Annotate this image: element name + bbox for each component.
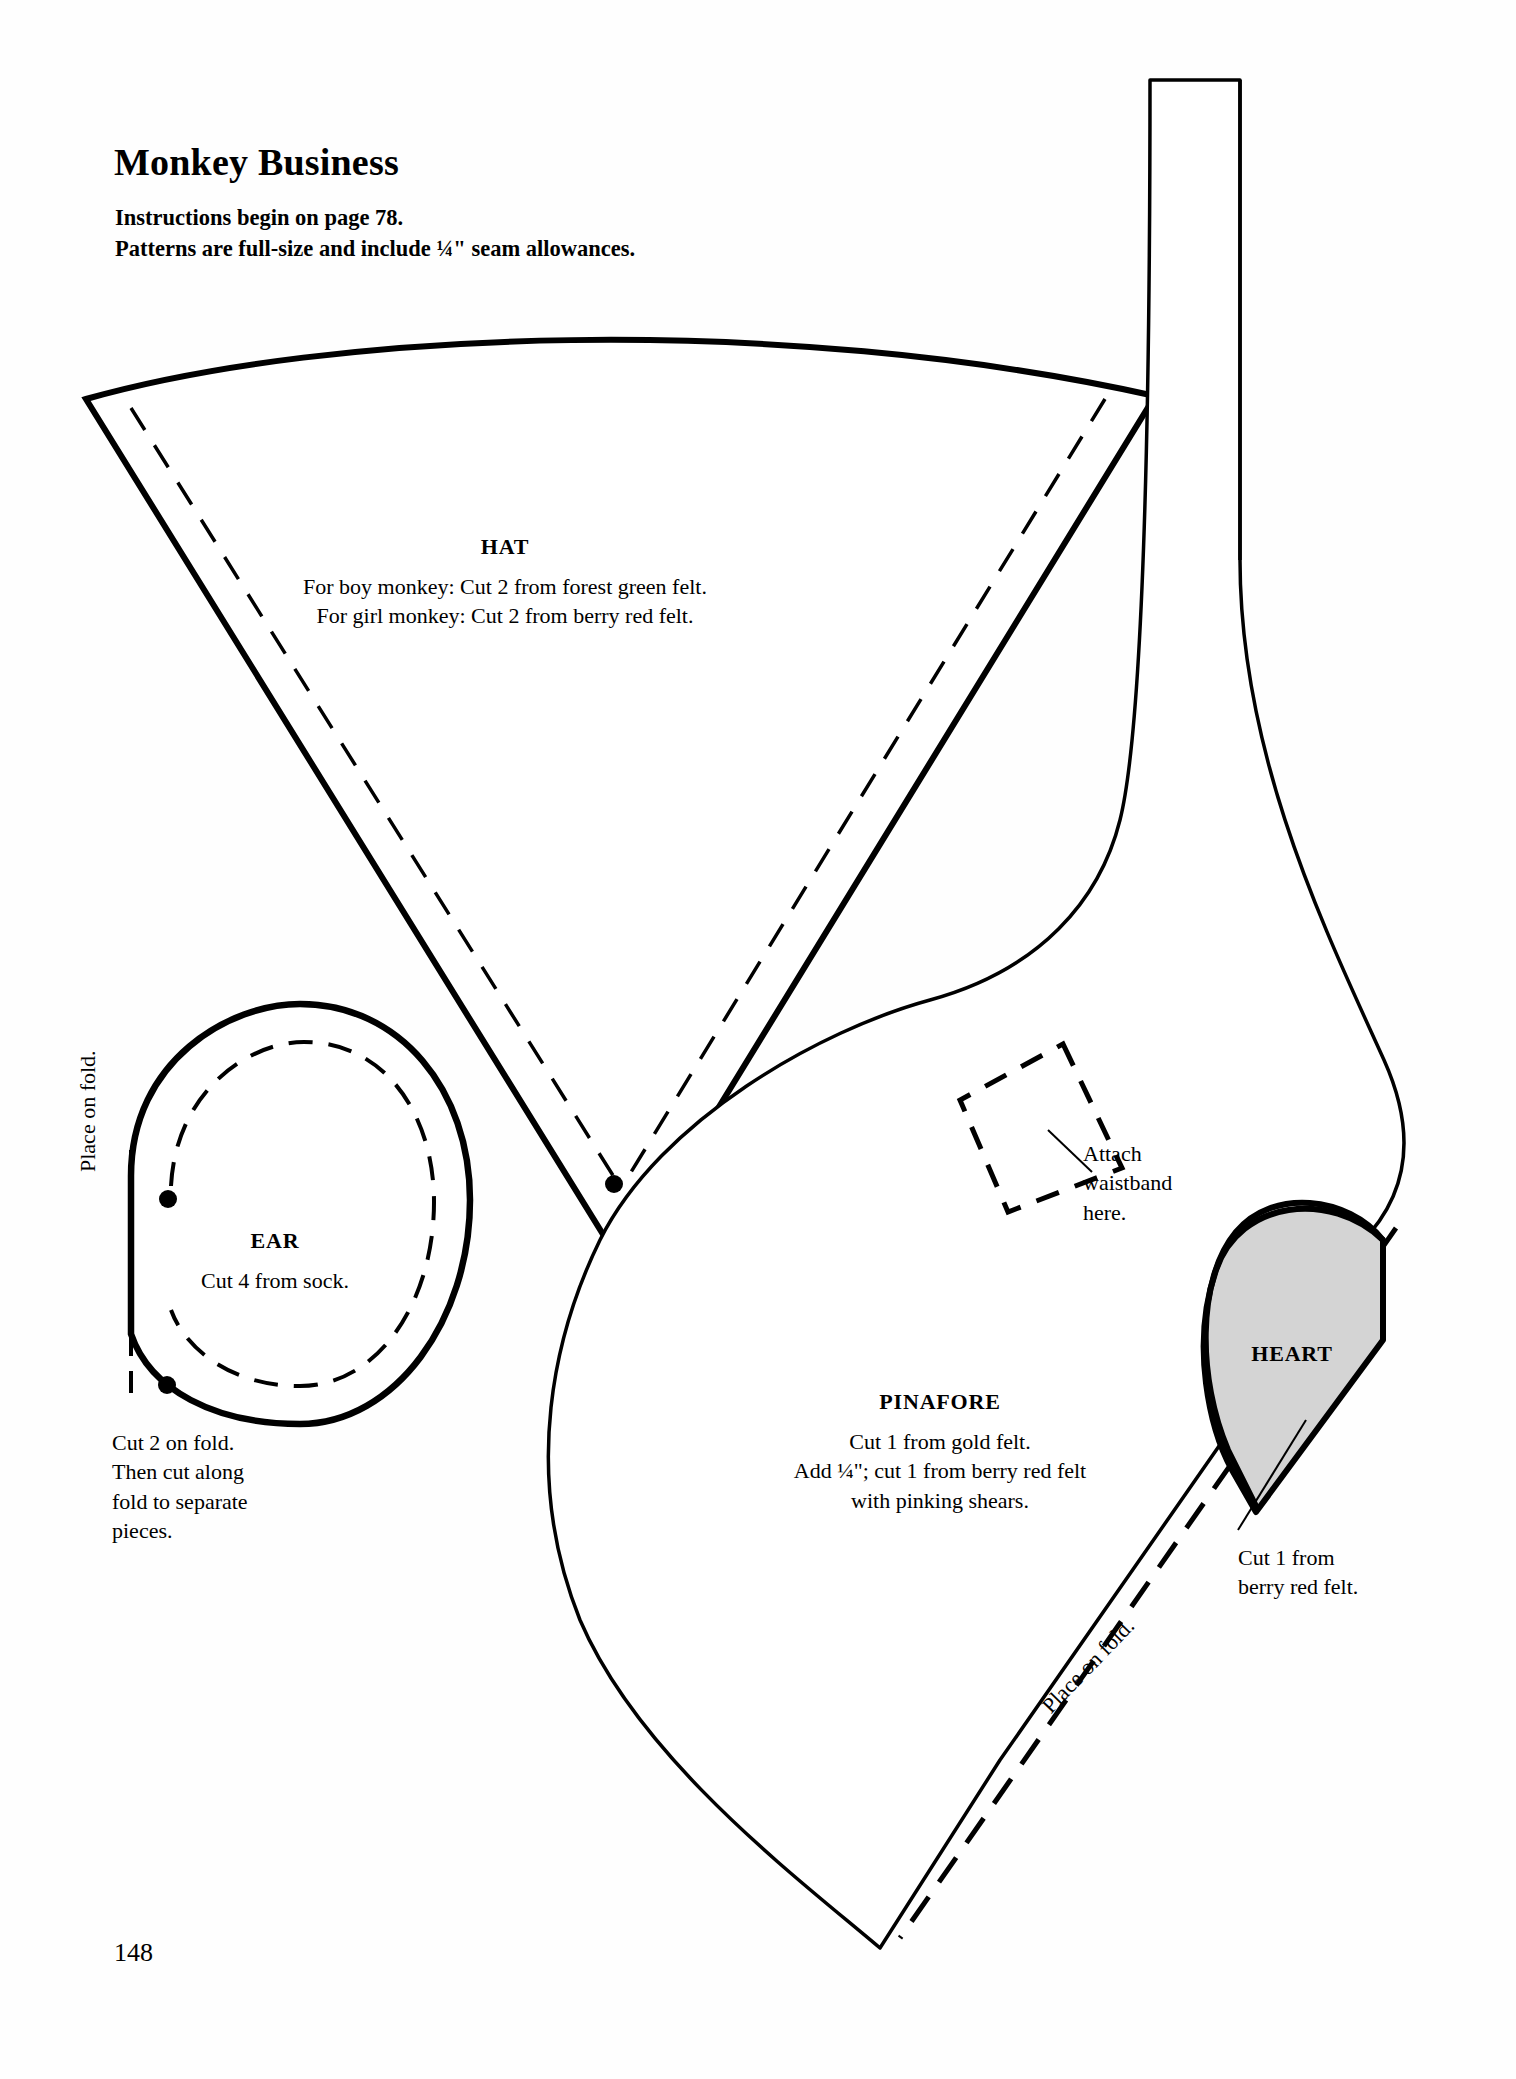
- ear-fold-dot-top: [159, 1190, 177, 1208]
- pattern-diagram: [0, 0, 1516, 2079]
- attach-waistband-note: Attach waistband here.: [1083, 1139, 1172, 1227]
- page-number: 148: [114, 1936, 153, 1969]
- ear-fold-dot-bottom: [158, 1376, 176, 1394]
- page-title: Monkey Business: [114, 138, 399, 187]
- hat-piece-note: For boy monkey: Cut 2 from forest green …: [0, 572, 1010, 631]
- hat-piece-label: HAT: [0, 533, 1010, 561]
- pattern-page: Monkey Business Instructions begin on pa…: [0, 0, 1516, 2079]
- pattern-instructions: Instructions begin on page 78. Patterns …: [115, 203, 635, 264]
- ear-place-on-fold-label: Place on fold.: [74, 932, 102, 1172]
- ear-piece-note: Cut 4 from sock.: [140, 1266, 410, 1295]
- ear-cut-line: [131, 1004, 470, 1424]
- pinafore-piece-label: PINAFORE: [700, 1388, 1180, 1416]
- hat-apex-dot: [605, 1175, 623, 1193]
- heart-piece-label: HEART: [1212, 1340, 1372, 1368]
- ear-cutting-note: Cut 2 on fold. Then cut along fold to se…: [112, 1428, 248, 1546]
- ear-piece-label: EAR: [140, 1227, 410, 1255]
- pinafore-piece-note: Cut 1 from gold felt. Add ¼"; cut 1 from…: [690, 1427, 1190, 1515]
- heart-piece-note: Cut 1 from berry red felt.: [1238, 1543, 1358, 1602]
